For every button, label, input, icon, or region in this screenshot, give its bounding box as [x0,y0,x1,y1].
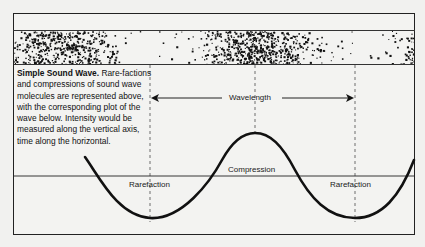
rarefaction-label-right: Rarefaction [330,180,371,189]
wavelength-label: Wavelength [229,93,271,102]
wave-plot [0,0,425,247]
rarefaction-label-left: Rarefaction [129,180,170,189]
compression-label: Compression [228,165,275,174]
sound-wave-curve [85,133,414,218]
